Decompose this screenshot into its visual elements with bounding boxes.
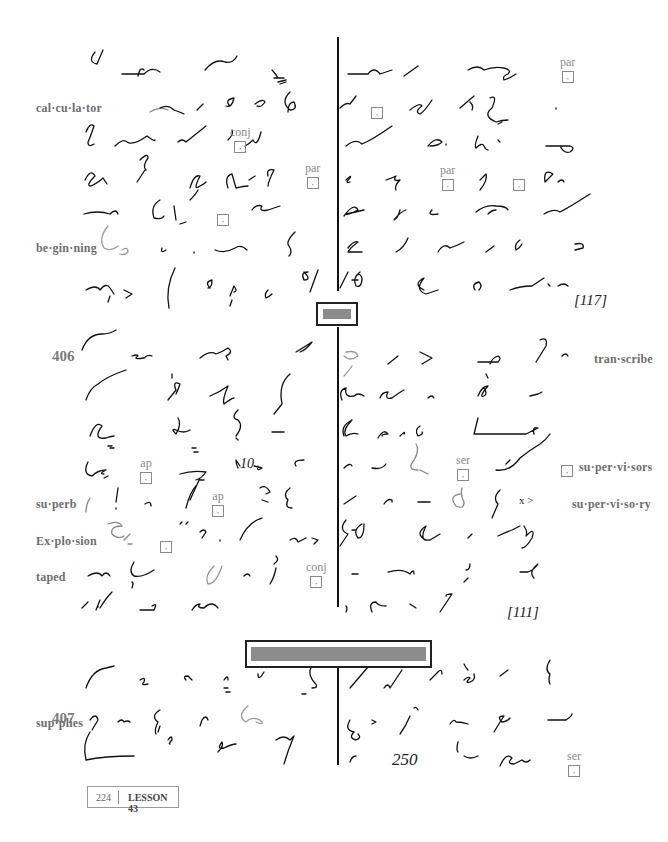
gloss-supervisors: su·per·vi·sors bbox=[579, 460, 652, 475]
word-count: [111] bbox=[507, 604, 539, 621]
column-divider bbox=[337, 37, 339, 291]
page-number: 224 bbox=[96, 792, 111, 803]
section-separator-small bbox=[316, 302, 358, 326]
mark-ap: ap, bbox=[140, 457, 152, 484]
gloss-calculator: cal·cu·la·tor bbox=[36, 101, 102, 116]
gloss-superb: su·perb bbox=[36, 497, 77, 512]
inline-number: 10 bbox=[240, 456, 254, 472]
page-footer: 224 LESSON 43 bbox=[87, 786, 179, 808]
column-divider bbox=[337, 665, 339, 765]
mark-comma: , bbox=[513, 176, 525, 191]
footer-divider bbox=[118, 791, 119, 804]
mark-par: par, bbox=[560, 56, 575, 83]
mark-conj: conj, bbox=[230, 126, 251, 153]
mark-comma: , bbox=[217, 211, 229, 226]
mark-comma: , bbox=[371, 104, 383, 119]
column-divider bbox=[337, 327, 339, 607]
mark-ap: ap, bbox=[212, 490, 224, 517]
gloss-supplies: sup·plies bbox=[36, 716, 83, 731]
word-count: [117] bbox=[574, 292, 607, 309]
inline-number: 250 bbox=[392, 750, 418, 770]
mark-comma: , bbox=[561, 462, 573, 477]
shorthand-page: 406 407 cal·cu·la·tor be·gin·ning tran·s… bbox=[0, 0, 668, 842]
lesson-label: LESSON 43 bbox=[128, 792, 178, 814]
gloss-transcribe: tran·scribe bbox=[594, 352, 653, 367]
mark-comma: , bbox=[160, 538, 172, 553]
section-separator-wide bbox=[245, 640, 432, 668]
gloss-explosion: Ex·plo·sion bbox=[36, 534, 97, 549]
mark-conj: conj, bbox=[306, 561, 327, 588]
mark-par: par, bbox=[305, 162, 320, 189]
inline-symbol: x > bbox=[519, 494, 533, 506]
section-number: 406 bbox=[52, 348, 75, 365]
mark-ser: ser, bbox=[567, 750, 581, 777]
shorthand-strokes bbox=[0, 0, 668, 842]
gloss-taped: taped bbox=[36, 570, 66, 585]
gloss-beginning: be·gin·ning bbox=[36, 241, 97, 256]
gloss-supervisory: su·per·vi·so·ry bbox=[572, 497, 651, 512]
mark-par: par, bbox=[440, 164, 455, 191]
mark-ser: ser, bbox=[456, 454, 470, 481]
